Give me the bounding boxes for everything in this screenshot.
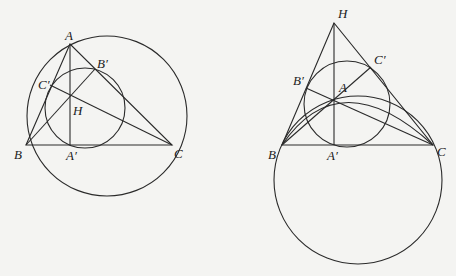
label-a-prime: A′: [65, 148, 77, 163]
geometry-figure: A B′ C′ H B A′ C H C′ B′ A B A′ C: [0, 0, 456, 276]
label-a: A: [64, 28, 73, 43]
label-b-prime: B′: [97, 56, 108, 71]
label-b: B: [268, 147, 276, 162]
large-circle: [274, 96, 442, 264]
label-c: C: [174, 146, 183, 161]
label-c: C: [437, 144, 446, 159]
right-figure: H C′ B′ A B A′ C: [268, 6, 446, 264]
label-a-prime: A′: [326, 148, 338, 163]
left-figure: A B′ C′ H B A′ C: [14, 28, 187, 196]
label-b: B: [14, 147, 22, 162]
diagram-canvas: A B′ C′ H B A′ C H C′ B′ A B A′ C: [0, 0, 456, 276]
label-b-prime: B′: [293, 73, 304, 88]
label-c-prime: C′: [38, 77, 50, 92]
altitude-b: [26, 69, 95, 145]
label-c-prime: C′: [374, 52, 386, 67]
label-h: H: [72, 103, 83, 118]
label-h: H: [337, 6, 348, 21]
altitude-c: [50, 85, 172, 145]
nine-point-circle: [304, 61, 390, 147]
label-a: A: [338, 80, 347, 95]
